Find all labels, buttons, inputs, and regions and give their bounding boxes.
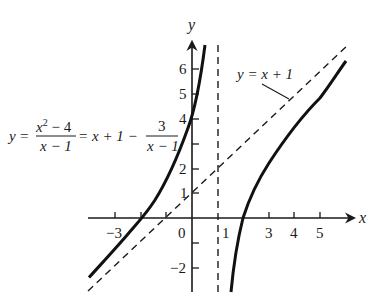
graph-canvas: −3 0 1 3 4 5 6 5 4 2 1 −2 x y y = x + 1 … <box>0 0 376 300</box>
equation-label: y = x2 − 4 x − 1 = x + 1 − 3 x − 1 <box>7 117 179 154</box>
x-tick-label: 1 <box>222 225 230 241</box>
x-tick-label: 4 <box>290 225 298 241</box>
svg-text:x − 1: x − 1 <box>146 138 179 154</box>
asymptote-label: y = x + 1 <box>235 66 293 82</box>
y-tick-label: 1 <box>180 185 188 201</box>
y-tick-label: 4 <box>179 111 187 127</box>
svg-text:=: = <box>20 128 28 144</box>
y-axis-label: y <box>186 16 196 34</box>
x-tick-label: −3 <box>106 225 122 241</box>
svg-text:x − 1: x − 1 <box>39 138 72 154</box>
svg-text:=: = <box>79 128 87 144</box>
svg-text:x2 − 4: x2 − 4 <box>35 117 72 135</box>
curve-left-branch <box>89 45 205 278</box>
y-tick-label: 6 <box>179 61 187 77</box>
curve-right-branch <box>231 61 346 292</box>
asymptote-leader-line <box>262 84 289 99</box>
x-tick-label: 3 <box>265 225 273 241</box>
svg-text:3: 3 <box>158 118 166 134</box>
x-axis-label: x <box>358 209 366 226</box>
y-tick-label: 2 <box>179 161 187 177</box>
x-tick-label: 0 <box>178 225 186 241</box>
x-tick-label: 5 <box>316 225 324 241</box>
svg-text:x + 1 −: x + 1 − <box>91 128 138 144</box>
y-tick-label: −2 <box>170 260 186 276</box>
y-tick-label: 5 <box>179 86 187 102</box>
svg-text:y: y <box>7 128 16 144</box>
